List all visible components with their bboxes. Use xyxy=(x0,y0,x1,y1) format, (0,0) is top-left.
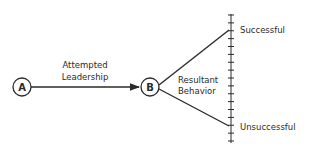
edge-label-line2: Leadership xyxy=(62,72,109,82)
node-b: B xyxy=(141,78,159,96)
leadership-diagram: A Attempted Leadership B Resultant Behav… xyxy=(0,0,311,158)
node-a: A xyxy=(13,78,31,96)
branch-label-line1: Resultant xyxy=(178,75,219,85)
outcome-scale xyxy=(228,14,234,143)
node-b-label: B xyxy=(146,82,154,93)
node-a-label: A xyxy=(18,82,26,93)
scale-top-label: Successful xyxy=(240,25,285,35)
branch-label-line2: Behavior xyxy=(178,86,216,96)
edge-label-line1: Attempted xyxy=(62,60,107,70)
scale-bottom-label: Unsuccessful xyxy=(240,122,296,132)
